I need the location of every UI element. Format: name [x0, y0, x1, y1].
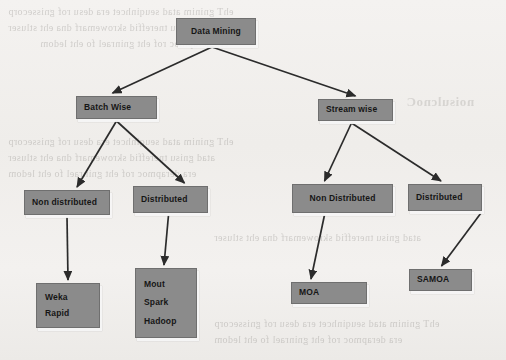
edge-batch-nondist-leaf [67, 217, 68, 280]
node-label-mout-spark-hadoop-0: Mout [144, 280, 165, 289]
bleed-line-9: era derapmoc rof eht gninrael fo eht led… [214, 334, 402, 345]
node-data-mining: Data Mining [176, 18, 256, 45]
scanned-page: ehT gninim atad seuqinhcet era desu rof … [0, 0, 506, 360]
node-stream-distributed: Distributed [408, 184, 482, 211]
bleed-line-5: atad gnisu tnereffid skrowemarf dna eht … [8, 152, 215, 163]
bleed-line-1: ehT gninim atad seuqinhcet era desu rof … [8, 6, 234, 17]
node-label-samoa: SAMOA [417, 275, 449, 284]
node-label-moa: MOA [299, 288, 319, 297]
node-stream-wise: Stream wise [318, 99, 393, 121]
node-label-batch-wise: Batch Wise [84, 103, 131, 112]
node-moa: MOA [291, 282, 367, 304]
bleed-line-6: era derapmoc rof eht gninrael fo eht led… [8, 168, 196, 179]
edge-stream-dist [352, 123, 442, 181]
node-label-stream-non-distributed: Non Distributed [310, 194, 376, 203]
node-weka-rapid: WekaRapid [36, 283, 100, 328]
edge-batch-nondist [77, 121, 117, 187]
bleed-heading: noisulcnoC [406, 94, 474, 110]
node-stream-non-distributed: Non Distributed [292, 184, 393, 213]
edge-stream-nondist-leaf [311, 215, 325, 279]
node-batch-wise: Batch Wise [76, 96, 157, 119]
node-label-weka-rapid-0: Weka [45, 293, 68, 302]
node-batch-distributed: Distributed [133, 186, 208, 213]
node-label-batch-distributed: Distributed [141, 195, 188, 204]
edge-batch-dist-leaf [164, 215, 169, 265]
node-mout-spark-hadoop: MoutSparkHadoop [135, 268, 197, 338]
edge-root-stream [212, 47, 356, 96]
node-batch-non-distributed: Non distributed [24, 190, 110, 215]
node-label-stream-wise: Stream wise [326, 105, 377, 114]
node-label-batch-non-distributed: Non distributed [32, 198, 97, 207]
node-label-mout-spark-hadoop-2: Hadoop [144, 317, 177, 326]
edge-root-batch [113, 47, 213, 93]
edge-batch-dist [117, 121, 185, 183]
node-label-stream-distributed: Distributed [416, 193, 463, 202]
node-label-data-mining: Data Mining [191, 27, 241, 36]
edge-stream-dist-leaf [442, 213, 482, 266]
bleed-line-4: ehT gninim atad seuqinhcet era desu rof … [8, 136, 234, 147]
bleed-line-8: ehT gninim atad seuqinhcet era desu rof … [214, 318, 440, 329]
node-label-weka-rapid-1: Rapid [45, 309, 69, 318]
node-label-mout-spark-hadoop-1: Spark [144, 298, 168, 307]
edge-stream-nondist [325, 123, 352, 181]
node-samoa: SAMOA [409, 269, 472, 291]
bleed-line-7: atad gnisu tnereffid skrowemarf dna eht … [214, 232, 421, 243]
